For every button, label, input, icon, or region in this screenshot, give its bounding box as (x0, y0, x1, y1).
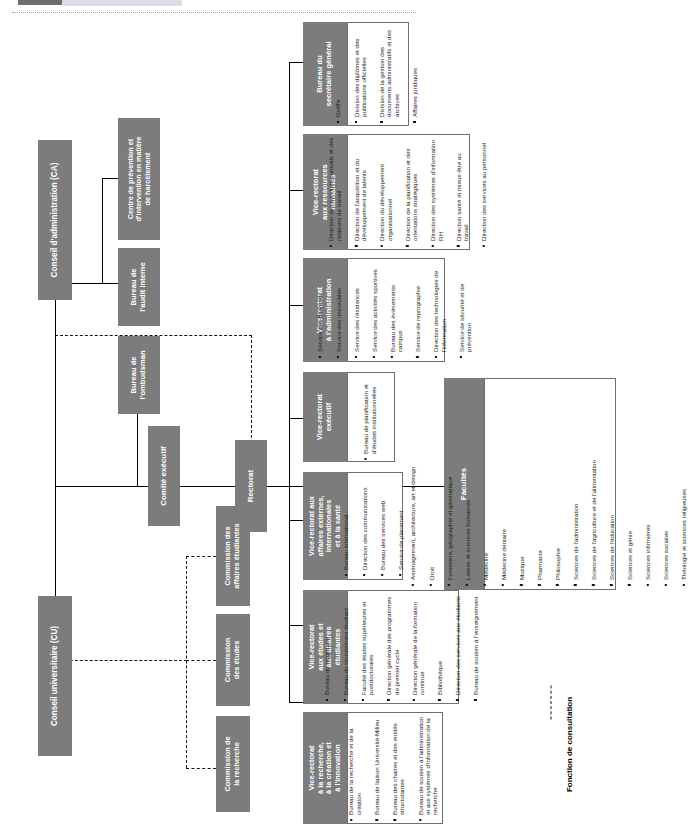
unit-executif-header[interactable]: Vice-rectorat exécutif (303, 372, 347, 462)
connector-stub-executif (289, 418, 303, 419)
list-item: Bureau international (343, 476, 350, 576)
list-item: Bureau du registraire (323, 593, 330, 701)
node-commission-affaires-etudiantes[interactable]: Commission des affaires étudiantes (216, 506, 250, 606)
bullet-list: Direction des services-conseils et des r… (319, 137, 498, 247)
list-item: Direction des communications (361, 476, 368, 576)
connector-main-vertical-lower (289, 486, 290, 702)
connector-to-harcelement (102, 178, 118, 179)
list-item: Division de la gestion des documents adm… (378, 25, 400, 123)
legend-label: Fonction de consultation (565, 690, 574, 800)
connector-stub-rh (289, 190, 303, 191)
connector-stub-etudes (289, 625, 303, 626)
dashed-to-etudes (186, 660, 216, 661)
list-item: Médecine dentaire (500, 382, 507, 586)
list-item: Service des résidences (352, 262, 359, 358)
bullet-list: Greffe Division des diplômes et des publ… (327, 25, 429, 123)
list-item: Sciences infirmières (644, 382, 651, 586)
list-item: Faculté des études supérieures et postdo… (359, 593, 374, 701)
list-item: Affaires juridiques (411, 25, 418, 123)
node-conseil-universitaire[interactable]: Conseil universitaire (CU) (38, 596, 72, 756)
list-item: Service des finances (316, 262, 323, 358)
list-item: Théologie et sciences religieuses (680, 382, 687, 586)
legend-dashed-line (551, 686, 552, 720)
unit-administration-items: Service des finances Service des immeubl… (347, 258, 445, 362)
unit-title: Vice-rectorat à la recherche, à la créat… (308, 714, 342, 822)
list-item: Greffe (334, 25, 341, 123)
scan-artifact-bar (18, 0, 62, 5)
bullet-list: Bureau de la recherche et de la création… (340, 715, 449, 821)
node-conseil-administration[interactable]: Conseil d'administration (CA) (38, 140, 72, 300)
list-item: Service des immeubles (334, 262, 341, 358)
list-item: Bureau des événements campus (389, 262, 404, 358)
connector-main-vertical (289, 62, 290, 488)
node-label: Commission des études (224, 616, 241, 704)
list-item: Sciences de l'agriculture et de l'alimen… (590, 382, 597, 586)
list-item: Service de sécurité et de prévention (458, 262, 473, 358)
list-item: Direction des services au personnel (480, 137, 487, 247)
unit-etudes-items: Bureau du registraire Bureau du recrutem… (347, 590, 459, 704)
node-bureau-audit[interactable]: Bureau de l'audit interne (118, 248, 160, 326)
connector-ca-branch-v (102, 178, 103, 284)
list-item: Direction des services aux étudiants (454, 593, 461, 701)
connector-stub-recherche (289, 702, 303, 703)
list-item: Bibliothèque (436, 593, 443, 701)
list-item: Bureau de soutien à l'enseignement (472, 593, 479, 701)
list-item: Sciences et génie (626, 382, 633, 586)
node-commission-recherche[interactable]: Commission de la recherche (216, 716, 250, 812)
bullet-list: Bureau de planification et d'études inst… (355, 374, 388, 460)
connector-stub-externes (289, 520, 303, 521)
list-item: Direction des services-conseils et des r… (327, 137, 342, 247)
list-item: Bureau des chaires et des entités struct… (391, 715, 406, 821)
list-item: Direction générale de la formation conti… (410, 593, 425, 701)
list-item: Sciences sociales (662, 382, 669, 586)
node-label: Conseil universitaire (CU) (50, 597, 59, 755)
connector-stub-admin (289, 305, 303, 306)
list-item: Pharmacie (536, 382, 543, 586)
unit-recherche-items: Bureau de la recherche et de la création… (347, 712, 443, 824)
node-bureau-ombudsman[interactable]: Bureau de l'ombudsman (118, 336, 160, 414)
list-item: Direction santé et mieux-être au travail (454, 137, 469, 247)
bullet-list: Aménagement, architecture, art et design… (402, 382, 692, 586)
list-item: Direction générale des programmes de pre… (385, 593, 400, 701)
node-centre-prevention[interactable]: Centre de prévention et d'intervention e… (118, 118, 160, 240)
list-item: Service des activités sportives (371, 262, 378, 358)
unit-affaires-externes-items: Bureau international Direction des commu… (347, 472, 403, 580)
list-item: Bureau de liaison Université-Milieu (373, 715, 380, 821)
bullet-list: Bureau du registraire Bureau du recrutem… (316, 593, 490, 701)
list-item: Bureau de la recherche et de la création (348, 715, 363, 821)
node-label: Bureau de l'audit interne (130, 250, 147, 324)
connector-to-audit (102, 283, 118, 284)
dashed-to-affaires-etud (186, 556, 216, 557)
list-item: Sciences de l'éducation (608, 382, 615, 586)
node-label: Centre de prévention et d'intervention e… (127, 120, 152, 238)
node-label: Commission de la recherche (224, 718, 241, 810)
dashed-cu-consult (55, 660, 187, 661)
bullet-list: Service des finances Service des immeubl… (309, 262, 483, 358)
unit-title: Vice-rectorat exécutif (316, 374, 333, 460)
node-commission-etudes[interactable]: Commission des études (216, 614, 250, 706)
list-item: Service de reprographie (414, 262, 421, 358)
list-item: Bureau de planification et d'études inst… (362, 374, 377, 460)
unit-facultes-items: Aménagement, architecture, art et design… (484, 378, 616, 590)
scan-artifact-band (62, 0, 182, 6)
list-item: Division des diplômes et des publication… (353, 25, 368, 123)
unit-secretariat-general-items: Greffe Division des diplômes et des publ… (347, 22, 409, 126)
dashed-commissions-v (186, 556, 187, 768)
list-item: Bureau de soutien à l'administration et … (417, 715, 439, 821)
list-item: Direction de la planification et des ori… (403, 137, 418, 247)
dashed-to-recherche-comm (186, 768, 216, 769)
list-item: Aménagement, architecture, art et design (409, 382, 416, 586)
list-item: Sciences de l'administration (572, 382, 579, 586)
list-item: Direction du développement organisationn… (378, 137, 393, 247)
node-comite-executif[interactable]: Comité exécutif (148, 426, 180, 526)
list-item: Droit (427, 382, 434, 586)
node-label: Comité exécutif (159, 428, 168, 524)
list-item: Foresterie, géographie et géomatique (445, 382, 452, 586)
list-item: Bureau du recrutement étudiant (341, 593, 348, 701)
list-item: Direction des technologies de l'informat… (432, 262, 447, 358)
legend: Fonction de consultation (540, 690, 580, 810)
node-label: Commission des affaires étudiantes (224, 508, 241, 604)
connector-stub-secretariat (289, 62, 303, 63)
list-item: Musique (518, 382, 525, 586)
